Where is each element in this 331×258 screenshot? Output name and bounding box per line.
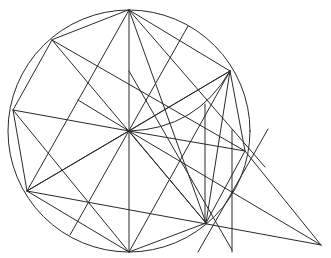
- segment-o-f: [129, 131, 321, 245]
- segment-t-p6: [129, 10, 206, 223]
- geometry-diagram: [0, 0, 331, 258]
- segment-p2-b: [13, 110, 129, 252]
- segment-t-p3: [27, 10, 129, 191]
- segment-p5-f: [245, 151, 321, 245]
- segment-m1-m2: [129, 71, 232, 250]
- segments-layer: [13, 10, 321, 252]
